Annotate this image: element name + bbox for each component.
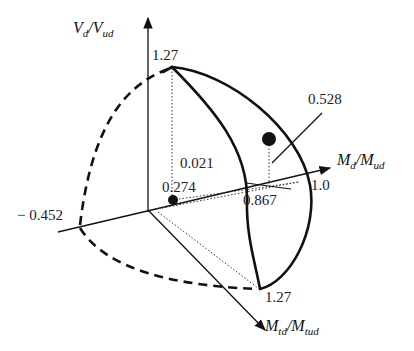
label-0867: 0.867 xyxy=(243,192,277,208)
depth-axis-label: Mtd/Mtud xyxy=(264,317,319,337)
label-0021: 0.021 xyxy=(180,155,214,171)
label-m-left: − 0.452 xyxy=(17,207,63,223)
label-0274: 0.274 xyxy=(162,179,196,195)
data-point-b xyxy=(262,132,276,146)
label-m-right: 1.0 xyxy=(311,177,330,193)
vertical-axis-label: Vd/Vud xyxy=(73,19,114,39)
projection-lines xyxy=(152,68,300,288)
interaction-surface-diagram: 1.27 0.528 0.021 0.274 0.867 1.0 − 0.452… xyxy=(0,0,414,351)
leader-0528 xyxy=(272,113,322,163)
label-0528: 0.528 xyxy=(308,91,342,107)
horizontal-axis-label: Md/Mud xyxy=(336,151,385,171)
data-point-a xyxy=(168,195,178,205)
label-mt-bottom: 1.27 xyxy=(265,289,292,305)
label-v-top: 1.27 xyxy=(152,47,179,63)
horizontal-axis xyxy=(58,168,330,232)
